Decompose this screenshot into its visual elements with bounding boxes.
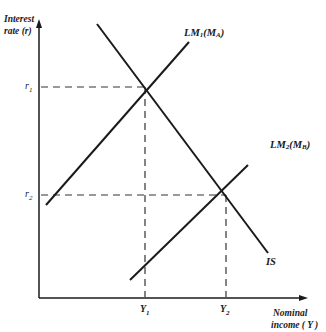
tick-r1: r1	[25, 81, 32, 94]
y-axis-title: Interest rate (r)	[4, 13, 34, 37]
diagram-svg	[0, 0, 326, 332]
lm2-label-paren-open: (M	[289, 139, 302, 150]
lm1-label-prefix: LM	[184, 27, 200, 38]
lm1-label-paren-open: (M	[203, 27, 216, 38]
y-axis-title-line2: rate (r)	[4, 25, 34, 37]
lm2-label-paren-close: )	[307, 139, 311, 150]
lm1-label: LM1(MA)	[184, 28, 224, 39]
x-axis-title-line1: Nominal	[271, 307, 318, 319]
lm2-curve	[130, 165, 248, 280]
tick-y2-sub: 2	[226, 309, 230, 317]
tick-y1-sub: 1	[146, 309, 150, 317]
tick-r1-sub: 1	[29, 86, 33, 94]
tick-y2: Y2	[220, 304, 230, 317]
is-label: IS	[266, 257, 276, 268]
is-label-text: IS	[266, 256, 276, 267]
is-lm-diagram: Interest rate (r) Nominal income ( Y ) r…	[0, 0, 326, 332]
is-curve	[97, 24, 268, 253]
x-axis-arrow-icon	[299, 295, 308, 301]
x-axis-title-line2: income ( Y )	[271, 319, 318, 331]
tick-r2-sub: 2	[29, 194, 33, 202]
lm2-label: LM2(MB)	[270, 140, 310, 151]
lm2-label-prefix: LM	[270, 139, 286, 150]
tick-r2: r2	[25, 189, 32, 202]
lm1-curve	[46, 42, 189, 205]
y-axis-title-line1: Interest	[4, 13, 34, 25]
y-axis-arrow-icon	[36, 19, 42, 28]
x-axis-title: Nominal income ( Y )	[271, 307, 318, 331]
tick-y1: Y1	[140, 304, 150, 317]
lm1-label-paren-close: )	[221, 27, 225, 38]
